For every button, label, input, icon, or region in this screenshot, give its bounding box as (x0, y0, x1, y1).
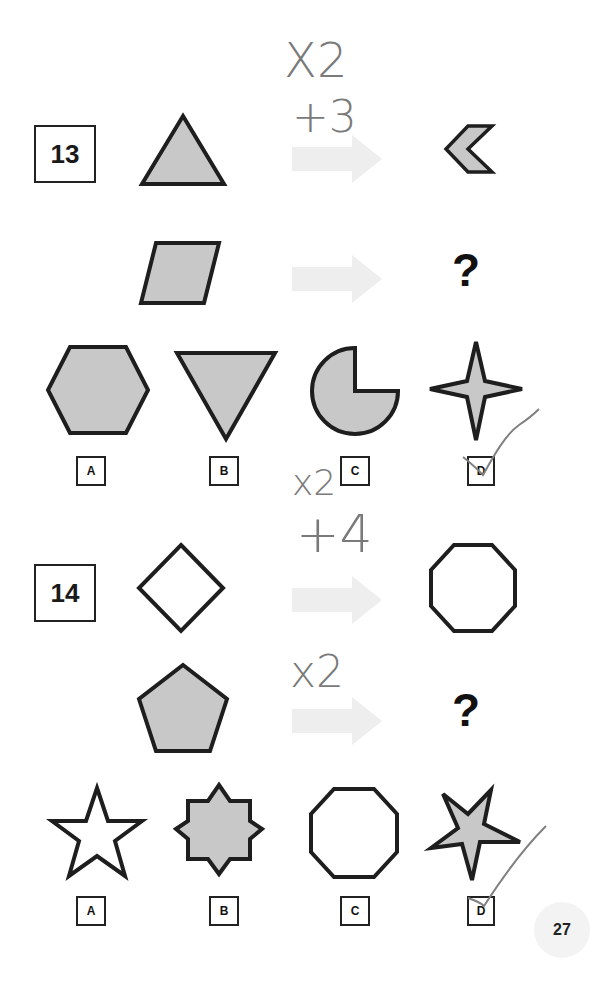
puzzle-number-14: 14 (34, 564, 96, 622)
triangle-up-shape (138, 112, 228, 188)
option-a-star-outline-shape[interactable] (50, 784, 144, 880)
pentagon-shape (136, 662, 230, 754)
question-mark: ? (452, 247, 480, 293)
arrow-right-icon (292, 697, 384, 745)
handwritten-note: x2 (290, 650, 344, 694)
option-c-octagon-shape[interactable] (308, 786, 400, 880)
option-b-triangle-down-shape[interactable] (174, 350, 278, 442)
checkmark-icon (462, 826, 552, 916)
question-mark: ? (452, 687, 480, 733)
arrow-right-icon (292, 135, 384, 183)
page-number: 27 (534, 902, 590, 958)
option-c-pie-shape[interactable] (308, 344, 402, 438)
option-b-label[interactable]: B (209, 456, 239, 486)
arrow-right-icon (292, 255, 384, 303)
handwritten-note: x2 (292, 465, 336, 501)
option-a-hexagon-shape[interactable] (46, 344, 150, 436)
checkmark-icon (455, 405, 545, 485)
arrow-right-icon (292, 576, 384, 624)
option-b-label[interactable]: B (209, 896, 239, 926)
chevron-left-shape (446, 122, 498, 176)
parallelogram-shape (138, 240, 222, 306)
puzzle-number-13: 13 (34, 125, 96, 183)
diamond-shape (136, 542, 226, 634)
option-b-eight-point-star-shape[interactable] (174, 782, 264, 876)
option-c-label[interactable]: C (340, 896, 370, 926)
octagon-shape (428, 542, 518, 634)
option-a-label[interactable]: A (76, 896, 106, 926)
handwritten-note: +3 (292, 95, 357, 139)
option-c-label[interactable]: C (340, 456, 370, 486)
option-a-label[interactable]: A (76, 456, 106, 486)
handwritten-note: X2 (284, 36, 347, 84)
handwritten-note: +4 (296, 508, 373, 560)
